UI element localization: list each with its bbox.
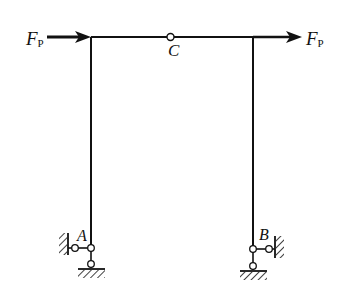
label-c: C xyxy=(168,41,180,60)
load-arrow-right xyxy=(253,31,302,43)
load-label-right: FP xyxy=(305,28,324,49)
load-arrow-left xyxy=(47,31,91,43)
hinge-c xyxy=(167,34,174,41)
label-a: A xyxy=(76,227,87,244)
label-b: B xyxy=(259,226,269,243)
load-label-left: FP xyxy=(25,28,44,49)
frame-diagram: C FP FP A xyxy=(0,0,344,303)
